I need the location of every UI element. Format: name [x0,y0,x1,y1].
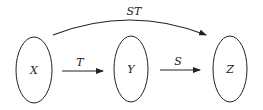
node-z: Z [213,36,247,102]
edge-s: S [160,55,200,70]
node-x-label: X [29,64,39,77]
edge-t: T [62,56,103,71]
composition-diagram: X Y Z T S ST [0,0,263,110]
edge-s-label: S [174,55,182,68]
edge-st-label: ST [127,5,144,18]
node-x: X [16,37,52,103]
edge-st: ST [53,5,206,35]
node-y: Y [114,36,148,102]
arrow-st-icon [53,20,206,35]
node-z-label: Z [225,63,234,76]
node-y-label: Y [127,63,136,76]
edge-t-label: T [76,56,85,69]
